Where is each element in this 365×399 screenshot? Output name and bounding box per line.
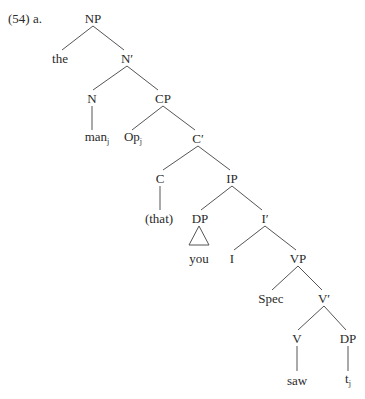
tree-node-n: N <box>87 92 96 105</box>
syntax-tree: (54) a. NPtheN′NCPmanjOpjC′CIP(that)DPI′… <box>0 0 365 399</box>
tree-branch <box>127 66 158 90</box>
tree-branch <box>93 26 124 50</box>
tree-node-dp1: DP <box>192 212 209 225</box>
node-label: N′ <box>121 51 133 66</box>
tree-node-ibar: I′ <box>261 212 268 225</box>
example-label: (54) a. <box>8 11 42 27</box>
tree-node-np: NP <box>85 12 102 25</box>
tree-branch <box>163 106 195 130</box>
tree-node-c: C <box>156 172 165 185</box>
node-label: VP <box>290 251 307 266</box>
tree-branch <box>132 106 163 130</box>
tree-branch <box>62 26 93 50</box>
tree-node-spec: Spec <box>258 292 283 305</box>
node-label: Op <box>124 129 140 144</box>
node-label: man <box>85 129 107 144</box>
tree-branch <box>198 146 230 170</box>
node-label: I <box>230 251 234 266</box>
node-label: DP <box>192 211 209 226</box>
node-label: I′ <box>261 211 268 226</box>
node-label: CP <box>155 91 171 106</box>
tree-node-vbar: V′ <box>318 292 330 305</box>
node-index: j <box>107 137 109 146</box>
node-label: the <box>52 51 68 66</box>
node-index: j <box>349 379 351 388</box>
tree-node-man: manj <box>85 130 110 146</box>
node-label: V <box>292 331 301 346</box>
node-label: NP <box>85 11 102 26</box>
node-label: IP <box>226 171 238 186</box>
tree-branch <box>324 306 346 330</box>
tree-node-nbar: N′ <box>121 52 133 65</box>
tree-node-cbar: C′ <box>192 132 204 145</box>
tree-node-saw: saw <box>287 374 307 387</box>
tree-branch <box>272 266 298 290</box>
tree-branch <box>163 146 198 170</box>
triangle-icon <box>189 226 209 245</box>
node-label: C′ <box>192 131 204 146</box>
tree-node-i: I <box>230 252 234 265</box>
node-label: DP <box>340 331 357 346</box>
tree-branch <box>298 306 324 330</box>
tree-branch <box>232 186 262 210</box>
node-label: V′ <box>318 291 330 306</box>
tree-node-t: tj <box>345 372 351 388</box>
tree-node-dp2: DP <box>340 332 357 345</box>
tree-branch <box>93 66 127 90</box>
tree-node-the: the <box>52 52 68 65</box>
node-label: N <box>87 91 96 106</box>
tree-branch <box>234 226 265 250</box>
tree-node-cp: CP <box>155 92 171 105</box>
tree-node-that: (that) <box>145 212 173 225</box>
node-label: Spec <box>258 291 283 306</box>
tree-node-ip: IP <box>226 172 238 185</box>
node-label: (that) <box>145 211 173 226</box>
tree-branch <box>298 266 322 290</box>
tree-node-vp: VP <box>290 252 307 265</box>
node-label: you <box>189 251 209 266</box>
tree-node-you: you <box>189 252 209 265</box>
tree-branch <box>265 226 296 250</box>
tree-node-v: V <box>292 332 301 345</box>
node-label: C <box>156 171 165 186</box>
tree-branch <box>201 186 232 210</box>
tree-node-op: Opj <box>124 130 142 146</box>
node-label: saw <box>287 373 307 388</box>
node-index: j <box>140 137 142 146</box>
